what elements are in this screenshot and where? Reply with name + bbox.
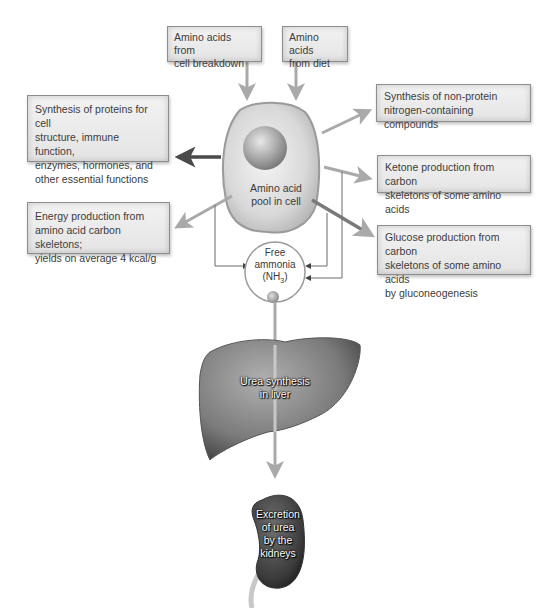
ammonia-formula: (NH3): [245, 271, 305, 287]
ammonia-label: Free ammonia (NH3): [245, 247, 305, 287]
output-box-ketone: Ketone production from carbon skeletons …: [377, 155, 531, 193]
output-box-energy: Energy production from amino acid carbon…: [27, 202, 170, 254]
output-box-protein-synthesis: Synthesis of proteins for cell structure…: [27, 95, 169, 162]
output-box-glucose: Glucose production from carbon skeletons…: [377, 225, 531, 275]
kidney-label: Excretion of urea by the kidneys: [248, 508, 308, 560]
source-box-diet: Amino acids from diet: [282, 26, 348, 62]
source-box-cell-breakdown: Amino acids from cell breakdown: [167, 26, 262, 62]
cell-illustration: [223, 103, 319, 233]
liver-label: Urea synthesis in liver: [230, 375, 320, 401]
pool-label: Amino acid pool in cell: [238, 182, 314, 208]
output-box-non-protein: Synthesis of non-protein nitrogen-contai…: [376, 84, 531, 122]
